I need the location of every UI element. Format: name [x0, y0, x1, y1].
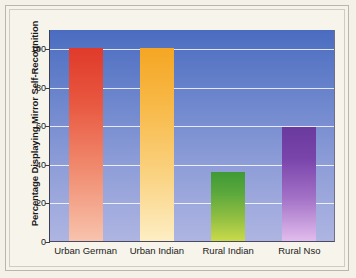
- y-axis-tick-mark: [45, 126, 50, 127]
- x-axis-tick-labels: Urban GermanUrban IndianRural IndianRura…: [50, 245, 335, 261]
- x-axis-tick-label: Urban German: [54, 245, 117, 256]
- bar-rural-indian: [211, 172, 245, 241]
- y-axis-tick-mark: [45, 88, 50, 89]
- y-axis-tick-mark: [45, 242, 50, 243]
- y-axis-tick-mark: [45, 49, 50, 50]
- plot-area: [50, 30, 335, 242]
- bar-urban-indian: [140, 48, 174, 241]
- y-axis-tick-labels: 020406080100: [26, 30, 46, 242]
- y-axis-tick-mark: [45, 203, 50, 204]
- y-axis-tick-mark: [45, 165, 50, 166]
- chart-figure: Percentage Displaying Mirror Self-Recogn…: [0, 0, 356, 278]
- x-axis-tick-label: Rural Indian: [203, 245, 254, 256]
- x-axis-tick-label: Rural Nso: [278, 245, 320, 256]
- x-axis-tick-label: Urban Indian: [130, 245, 184, 256]
- bar-rural-nso: [282, 127, 316, 241]
- y-axis-tick-label: 100: [31, 44, 46, 54]
- bar-urban-german: [69, 48, 103, 241]
